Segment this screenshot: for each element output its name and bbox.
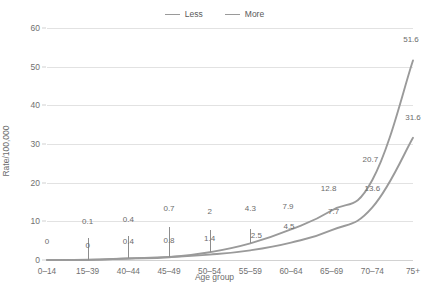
label-leader-line bbox=[169, 227, 170, 257]
y-tick-mark bbox=[42, 182, 46, 183]
x-tick-label: 65–69 bbox=[320, 266, 343, 276]
y-tick-mark bbox=[42, 66, 46, 67]
x-tick-label: 40–44 bbox=[117, 266, 140, 276]
y-axis-title: Rate/100,000 bbox=[1, 125, 11, 176]
label-leader-line bbox=[210, 230, 211, 252]
x-tick-label: 75+ bbox=[406, 266, 420, 276]
legend-label-more: More bbox=[245, 9, 264, 19]
x-tick-label: 45–49 bbox=[157, 266, 180, 276]
line-chart: Less More Rate/100,000 Age group 0102030… bbox=[0, 0, 429, 301]
y-tick-label: 40 bbox=[31, 100, 40, 110]
x-tick-label: 15–39 bbox=[76, 266, 99, 276]
series-layer bbox=[47, 28, 413, 260]
y-tick-label: 10 bbox=[31, 216, 40, 226]
y-tick-label: 60 bbox=[31, 23, 40, 33]
legend-label-less: Less bbox=[185, 9, 203, 19]
y-tick-label: 20 bbox=[31, 178, 40, 188]
x-tick-label: 50–54 bbox=[198, 266, 221, 276]
legend-item-less[interactable]: Less bbox=[165, 9, 203, 19]
y-tick-mark bbox=[42, 28, 46, 29]
legend-swatch-more bbox=[225, 14, 240, 15]
y-tick-mark bbox=[42, 144, 46, 145]
x-tick-label: 0–14 bbox=[38, 266, 56, 276]
y-tick-mark bbox=[42, 221, 46, 222]
series-line-more bbox=[47, 60, 413, 260]
x-tick-label: 60–64 bbox=[279, 266, 302, 276]
y-tick-mark bbox=[42, 105, 46, 106]
y-tick-label: 50 bbox=[31, 62, 40, 72]
plot-area: 0102030405060 0–1415–3940–4445–4950–5455… bbox=[47, 28, 413, 260]
y-tick-mark bbox=[42, 260, 46, 261]
y-tick-label: 30 bbox=[31, 139, 40, 149]
chart-legend: Less More bbox=[0, 9, 429, 19]
legend-swatch-less bbox=[165, 14, 180, 15]
y-tick-label: 0 bbox=[35, 255, 40, 265]
label-leader-line bbox=[88, 238, 89, 260]
x-tick-label: 55–59 bbox=[239, 266, 262, 276]
label-leader-line bbox=[128, 236, 129, 258]
x-tick-label: 70–74 bbox=[361, 266, 384, 276]
label-leader-line bbox=[250, 229, 251, 243]
legend-item-more[interactable]: More bbox=[225, 9, 264, 19]
